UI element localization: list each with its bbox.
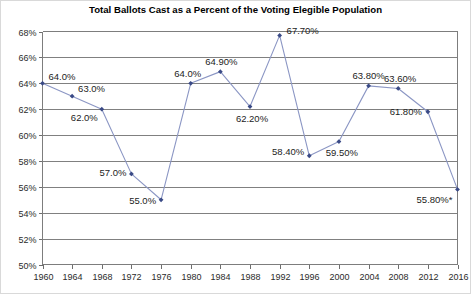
data-point-marker — [277, 33, 282, 38]
y-tick-label: 64% — [18, 79, 36, 89]
x-tick-label: 1988 — [240, 272, 260, 282]
x-tick-label: 2016 — [448, 272, 468, 282]
y-tick-label: 68% — [18, 28, 36, 38]
data-point-marker — [366, 83, 371, 88]
chart-container: Total Ballots Cast as a Percent of the V… — [0, 0, 471, 294]
data-point-label: 64.0% — [49, 71, 76, 82]
x-tick-labels-group: 1960196419681972197619801984198819921996… — [33, 272, 468, 282]
y-tick-labels-group: 68%66%64%62%60%58%56%54%52%50% — [18, 28, 36, 271]
x-tick-label: 1984 — [210, 272, 230, 282]
data-point-marker — [40, 81, 45, 86]
x-tick-label: 1964 — [62, 272, 82, 282]
data-labels-group: 64.0%63.0%62.0%57.0%55.0%64.0%64.90%62.2… — [49, 25, 453, 205]
x-tick-label: 2008 — [388, 272, 408, 282]
data-point-marker — [70, 94, 75, 99]
data-point-label: 63.60% — [384, 73, 417, 84]
data-point-label: 55.80%* — [417, 194, 453, 205]
y-tick-label: 58% — [18, 157, 36, 167]
x-tick-label: 1980 — [181, 272, 201, 282]
data-point-label: 67.70% — [287, 25, 320, 36]
data-point-marker — [99, 107, 104, 112]
y-tick-label: 56% — [18, 183, 36, 193]
x-tick-label: 2004 — [359, 272, 379, 282]
x-tick-label: 1996 — [299, 272, 319, 282]
x-tick-label: 1960 — [33, 272, 53, 282]
data-point-label: 64.90% — [205, 56, 238, 67]
y-tick-marks-group — [39, 33, 43, 266]
x-tick-label: 1972 — [121, 272, 141, 282]
x-tick-label: 2000 — [329, 272, 349, 282]
data-point-label: 62.0% — [71, 112, 98, 123]
y-tick-label: 60% — [18, 131, 36, 141]
y-tick-label: 52% — [18, 235, 36, 245]
x-tick-label: 1976 — [151, 272, 171, 282]
x-tick-label: 1992 — [270, 272, 290, 282]
data-point-label: 57.0% — [99, 167, 126, 178]
y-tick-label: 66% — [18, 53, 36, 63]
data-point-label: 64.0% — [174, 68, 201, 79]
x-tick-label: 2012 — [418, 272, 438, 282]
data-point-marker — [188, 81, 193, 86]
data-point-label: 63.80% — [352, 70, 385, 81]
image-border — [1, 1, 471, 294]
data-point-label: 58.40% — [272, 146, 305, 157]
data-point-label: 55.0% — [129, 195, 156, 206]
y-tick-label: 54% — [18, 209, 36, 219]
line-chart-plot: 68%66%64%62%60%58%56%54%52%50% 196019641… — [0, 0, 471, 294]
x-tick-marks-group — [44, 265, 459, 269]
data-point-marker — [307, 153, 312, 158]
data-point-marker — [337, 139, 342, 144]
y-tick-label: 62% — [18, 105, 36, 115]
x-tick-label: 1968 — [92, 272, 112, 282]
data-point-label: 61.80% — [390, 106, 423, 117]
y-tick-label: 50% — [18, 261, 36, 271]
data-point-label: 59.50% — [326, 147, 359, 158]
data-point-label: 63.0% — [78, 83, 105, 94]
data-point-label: 62.20% — [236, 113, 269, 124]
